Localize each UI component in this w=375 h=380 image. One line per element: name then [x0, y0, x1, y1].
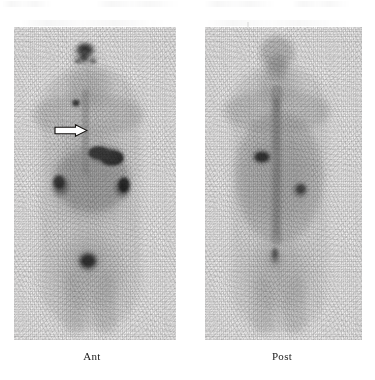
scan-noise-layer [205, 27, 362, 340]
header-artifact [20, 20, 170, 26]
header-artifact [96, 1, 182, 7]
header-artifact [292, 1, 352, 7]
header-artifact [206, 20, 354, 26]
header-artifact [204, 1, 278, 7]
scan-panel-anterior [14, 27, 176, 340]
lesion-arrow-icon [54, 124, 88, 137]
scan-panel-posterior [205, 27, 362, 340]
view-label-anterior: Ant [62, 350, 122, 362]
view-label-posterior: Post [252, 350, 312, 362]
header-artifact [2, 1, 54, 7]
scan-noise-layer [14, 27, 176, 340]
scintigraphy-figure: Ant Post [0, 0, 375, 380]
